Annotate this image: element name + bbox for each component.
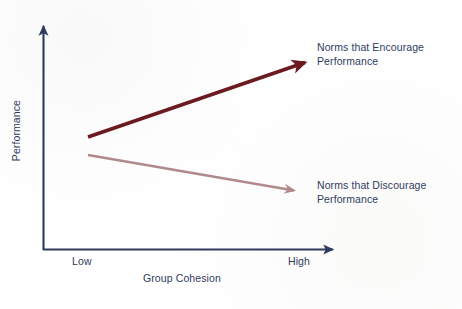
x-axis-tick-low: Low bbox=[72, 255, 92, 267]
series-label-discourage: Norms that Discourage Performance bbox=[317, 178, 426, 206]
series-line-encourage bbox=[88, 63, 305, 138]
series-label-encourage: Norms that Encourage Performance bbox=[317, 40, 424, 68]
y-axis-title-text: Performance bbox=[10, 100, 22, 161]
x-axis-title: Group Cohesion bbox=[143, 272, 221, 284]
series-label-discourage-line2: Performance bbox=[317, 192, 426, 206]
series-label-discourage-line1: Norms that Discourage bbox=[317, 178, 426, 192]
series-label-encourage-line2: Performance bbox=[317, 54, 424, 68]
y-axis-title: Performance bbox=[10, 39, 22, 100]
series-line-discourage bbox=[88, 155, 294, 191]
chart-figure: Performance Group Cohesion Low High Norm… bbox=[0, 0, 462, 309]
series-label-encourage-line1: Norms that Encourage bbox=[317, 40, 424, 54]
x-axis-tick-high: High bbox=[288, 255, 310, 267]
